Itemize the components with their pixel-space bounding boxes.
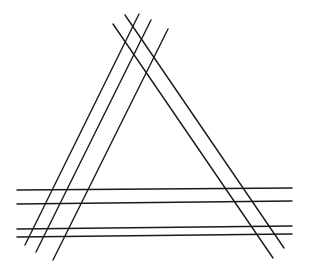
- left-side-lines: [25, 14, 168, 260]
- right-side-lines: [113, 15, 284, 258]
- base-line: [17, 201, 292, 204]
- base-lines: [17, 188, 292, 237]
- left-side-line: [53, 29, 168, 260]
- triangle-lines-diagram: [0, 0, 309, 276]
- right-side-line: [125, 15, 284, 248]
- base-line: [17, 234, 292, 237]
- base-line: [17, 226, 292, 229]
- left-side-line: [25, 14, 139, 245]
- right-side-line: [113, 24, 273, 258]
- base-line: [17, 188, 292, 190]
